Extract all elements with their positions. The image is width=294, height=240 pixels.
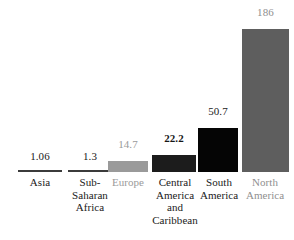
bar-south-america: [198, 128, 238, 172]
bar-column-south-america: 50.7: [198, 0, 238, 172]
category-label-line: Saharan: [60, 189, 120, 202]
bar-chart: 1.06 Asia 1.3 Sub- Saharan Africa 14.7 E…: [0, 0, 294, 240]
category-label-north-america: North America: [236, 176, 294, 201]
value-label-north-america: 186: [236, 6, 294, 18]
category-label-line: Africa: [60, 201, 120, 214]
bar-sub-saharan-africa: [68, 170, 112, 172]
bar-central-america-and-caribbean: [152, 155, 196, 172]
category-label-line: Caribbean: [145, 214, 205, 227]
value-label-asia: 1.06: [12, 150, 68, 162]
bar-europe: [108, 161, 148, 172]
bar-column-central-america-and-caribbean: 22.2: [152, 0, 196, 172]
bar-asia: [18, 170, 62, 172]
value-label-south-america: 50.7: [192, 105, 244, 117]
bars-layer: 1.06 Asia 1.3 Sub- Saharan Africa 14.7 E…: [0, 0, 294, 240]
value-label-central-america-and-caribbean: 22.2: [146, 132, 202, 144]
category-label-line: America: [236, 189, 294, 202]
category-label-line: North: [236, 176, 294, 189]
category-label-line: and: [145, 201, 205, 214]
bar-north-america: [242, 29, 289, 172]
bar-column-asia: 1.06: [18, 0, 62, 172]
bar-column-europe: 14.7: [108, 0, 148, 172]
bar-column-north-america: 186: [242, 0, 289, 172]
